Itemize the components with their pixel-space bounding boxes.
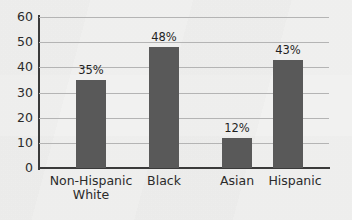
bar-value-label: 48% xyxy=(151,32,177,44)
y-tick-label: 0 xyxy=(3,162,33,175)
x-category-label: Black xyxy=(147,174,181,188)
bar xyxy=(76,80,106,168)
y-axis-tick-labels: 60 50 40 30 20 10 0 xyxy=(0,17,33,168)
bar xyxy=(222,138,252,168)
y-tick-label: 60 xyxy=(3,11,33,24)
y-tick-label: 10 xyxy=(3,137,33,150)
x-category-label: Non-Hispanic White xyxy=(50,174,133,201)
x-category-label: Hispanic xyxy=(268,174,321,188)
y-tick-label: 30 xyxy=(3,86,33,99)
plot-area: 35% 48% 12% 43% xyxy=(39,17,329,168)
bar-value-label: 35% xyxy=(78,65,104,77)
y-tick-label: 40 xyxy=(3,61,33,74)
bar-chart-figure: 60 50 40 30 20 10 0 35% 48% 12% 43% Non-… xyxy=(0,0,352,220)
bar xyxy=(273,60,303,168)
x-category-label: Asian xyxy=(220,174,254,188)
bar-value-label: 12% xyxy=(224,123,250,135)
y-tick-label: 20 xyxy=(3,111,33,124)
y-tick-label: 50 xyxy=(3,36,33,49)
bar xyxy=(149,47,179,168)
gridline xyxy=(39,17,329,18)
bar-value-label: 43% xyxy=(275,45,301,57)
